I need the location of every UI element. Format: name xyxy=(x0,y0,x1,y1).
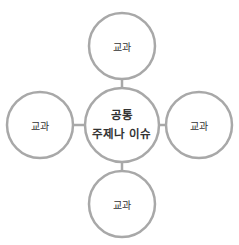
node-left: 교과 xyxy=(7,92,73,158)
node-right-label: 교과 xyxy=(190,118,208,133)
node-bottom-label: 교과 xyxy=(113,197,131,212)
hub-label-line1: 공통 xyxy=(111,106,133,125)
hub-label-line2: 주제나 이슈 xyxy=(92,125,151,144)
node-top: 교과 xyxy=(89,13,155,79)
node-top-label: 교과 xyxy=(113,39,131,54)
hub-node: 공통 주제나 이슈 xyxy=(85,88,159,162)
node-bottom: 교과 xyxy=(89,171,155,237)
node-left-label: 교과 xyxy=(31,118,49,133)
node-right: 교과 xyxy=(166,92,232,158)
